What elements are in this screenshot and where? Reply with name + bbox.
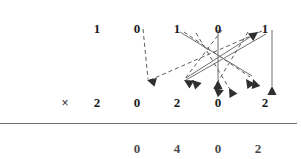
- multiplier-digit-4: 2: [258, 96, 272, 110]
- multiplicand-digit-3: 0: [211, 22, 225, 36]
- multiplicand-digit-0: 1: [90, 22, 104, 36]
- arrowhead-vertical-1: [267, 86, 276, 95]
- multiplier-digit-1: 0: [130, 96, 144, 110]
- arrowhead-over-2-right-a: [242, 76, 255, 89]
- arrowhead-over-2-a: [182, 76, 194, 88]
- result-digit-2: 0: [211, 142, 225, 156]
- solid-right-to-left: [186, 34, 266, 80]
- dashed-crossing-b: [184, 32, 250, 77]
- multiplier-digit-3: 0: [211, 96, 225, 110]
- multiply-operator: ×: [58, 96, 72, 110]
- multiplicand-digit-1: 0: [130, 22, 144, 36]
- multiplier-digit-0: 2: [90, 96, 104, 110]
- dashed-crossing-c: [214, 32, 248, 88]
- dashed-0-to-left-target: [143, 29, 148, 79]
- arrowhead-over-2-b: [189, 77, 202, 90]
- multiplier-digit-2: 2: [170, 96, 184, 110]
- multiplicand-digit-4: 1: [258, 22, 272, 36]
- diagram-canvas: 10101×202020402: [0, 0, 301, 159]
- horizontal-rule: [0, 123, 297, 124]
- dashed-1-to-far-left: [150, 31, 262, 80]
- arrow-layer: [0, 0, 301, 159]
- solid-1-to-right: [180, 32, 252, 76]
- arrowhead-over-2-right-b: [249, 77, 261, 89]
- multiplicand-digit-2: 1: [170, 22, 184, 36]
- result-digit-1: 4: [170, 142, 184, 156]
- arrowhead-vertical-0: [213, 80, 222, 89]
- arrowhead-over-0-mid-b: [225, 86, 237, 98]
- solid-up-right-diagonal: [186, 32, 258, 78]
- dashed-crossing-a: [184, 30, 222, 80]
- dashed-crossing-d: [196, 33, 229, 88]
- arrowhead-over-0-left: [146, 76, 157, 87]
- result-digit-3: 2: [251, 142, 265, 156]
- result-digit-0: 0: [130, 142, 144, 156]
